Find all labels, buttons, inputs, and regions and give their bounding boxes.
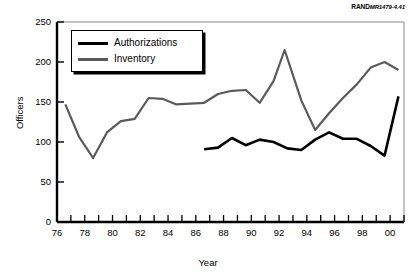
x-tick-label: 78 [73,228,97,238]
y-tick-label: 250 [25,17,51,27]
x-tick-label: 84 [156,228,180,238]
y-axis-label: Officers [15,83,25,143]
legend-label-inventory: Inventory [114,54,155,64]
y-tick-label: 100 [25,137,51,147]
x-tick-label: 96 [323,228,347,238]
x-tick-label: 82 [128,228,152,238]
y-tick-label: 150 [25,97,51,107]
y-tick-label: 200 [25,57,51,67]
legend-item-inventory: Inventory [78,52,155,66]
legend-swatch-authorizations [78,42,108,45]
x-tick-label: 80 [101,228,125,238]
x-tick-label: 90 [239,228,263,238]
x-axis-label: Year [0,258,416,268]
legend-swatch-inventory [78,58,108,61]
x-tick-label: 86 [184,228,208,238]
y-tick-label: 0 [25,217,51,227]
chart-legend: Authorizations Inventory [71,30,203,72]
x-tick-label: 94 [295,228,319,238]
x-tick-label: 76 [45,228,69,238]
legend-label-authorizations: Authorizations [114,38,177,48]
x-tick-label: 88 [212,228,236,238]
series-line-authorizations [204,96,398,155]
x-tick-label: 98 [350,228,374,238]
y-tick-label: 50 [25,177,51,187]
x-tick-label: 00 [378,228,402,238]
figure-container: RANDMR1479-4.41 Officers Year 0501001502… [0,0,416,277]
x-tick-label: 92 [267,228,291,238]
legend-item-authorizations: Authorizations [78,36,177,50]
